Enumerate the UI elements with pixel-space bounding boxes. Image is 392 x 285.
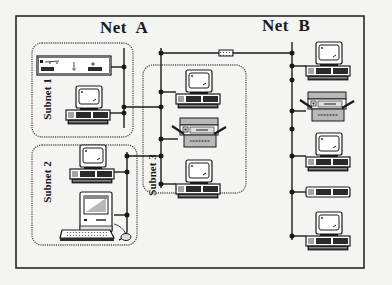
- net-b-desktop-1: [306, 42, 350, 80]
- net-b-printer: [300, 92, 354, 121]
- subnet-1-bus: [110, 48, 161, 128]
- repeater: [219, 50, 233, 56]
- net-b-bus: [290, 42, 306, 240]
- net-a-bus: [159, 48, 178, 188]
- subnet-3-desktop-bottom: [176, 160, 220, 198]
- macintosh-computer: [60, 192, 131, 241]
- rack-server: [37, 56, 111, 75]
- subnet-2-desktop: [70, 145, 114, 183]
- net-b-desktop-2: [306, 133, 350, 171]
- subnet-1-desktop: [66, 86, 110, 124]
- inter-net-link: [161, 50, 292, 56]
- subnet-3-desktop-top: [176, 70, 220, 108]
- diagram-canvas: [0, 0, 392, 285]
- net-b-desktop-3: [306, 212, 350, 250]
- network-diagram: Net A Net B Subnet 1 Subnet 2 Subnet 3: [0, 0, 392, 285]
- subnet-3-printer: [172, 118, 226, 147]
- net-b-system-unit: [306, 187, 350, 197]
